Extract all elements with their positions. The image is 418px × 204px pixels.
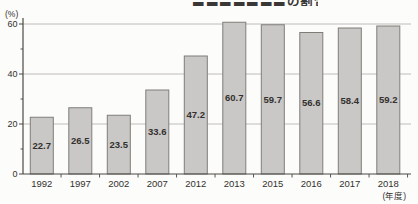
bar-value-label-1992: 22.7: [33, 140, 52, 151]
bar-value-label-2012: 47.2: [187, 109, 206, 120]
x-tick-label-2015: 2015: [262, 178, 283, 189]
x-tick-label-2016: 2016: [301, 178, 322, 189]
bar-value-label-2015: 59.7: [264, 94, 283, 105]
y-tick-label-60: 60: [7, 19, 17, 29]
y-tick-label-0: 0: [12, 169, 17, 179]
x-tick-label-1992: 1992: [31, 178, 52, 189]
bar-value-label-2007: 33.6: [148, 126, 167, 137]
x-tick-label-2017: 2017: [339, 178, 360, 189]
bar-chart: 0204060(%)22.7199226.5199723.5200233.620…: [0, 0, 418, 204]
y-axis-percent-label: (%): [5, 9, 18, 19]
x-tick-label-2002: 2002: [108, 178, 129, 189]
y-tick-label-20: 20: [7, 119, 17, 129]
y-tick-label-40: 40: [7, 69, 17, 79]
scanned-chart-page: 〓〓〓〓〓〓〓の割合 0204060(%)22.7199226.5199723.…: [0, 0, 418, 204]
bar-value-label-1997: 26.5: [71, 135, 90, 146]
x-tick-label-1997: 1997: [70, 178, 91, 189]
x-tick-label-2018: 2018: [378, 178, 399, 189]
x-axis-unit-label: (年度): [382, 191, 406, 201]
bar-value-label-2002: 23.5: [110, 139, 129, 150]
bar-value-label-2016: 56.6: [302, 97, 321, 108]
x-tick-label-2013: 2013: [224, 178, 245, 189]
bar-value-label-2017: 58.4: [341, 95, 360, 106]
x-tick-label-2007: 2007: [147, 178, 168, 189]
x-tick-label-2012: 2012: [185, 178, 206, 189]
bar-value-label-2018: 59.2: [379, 94, 398, 105]
bar-value-label-2013: 60.7: [225, 92, 244, 103]
